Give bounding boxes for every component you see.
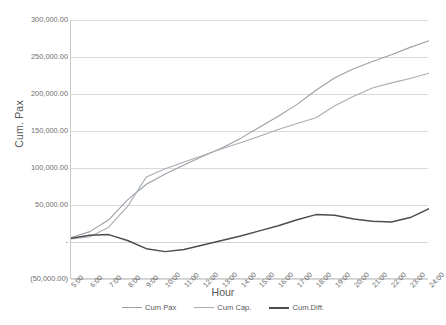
chart-legend: Cum PaxCum Cap.Cum.Diff. xyxy=(0,303,446,312)
series-line xyxy=(71,73,429,239)
legend-swatch xyxy=(269,307,289,309)
y-tick-label: 50,000.00 xyxy=(0,201,68,209)
legend-item[interactable]: Cum Cap. xyxy=(194,303,251,312)
x-axis-title: Hour xyxy=(0,286,446,298)
y-tick-label: 200,000.00 xyxy=(0,90,68,98)
y-tick-label: 150,000.00 xyxy=(0,127,68,135)
legend-label: Cum.Diff. xyxy=(292,303,324,312)
legend-swatch xyxy=(122,307,142,308)
y-tick-label: 250,000.00 xyxy=(0,53,68,61)
y-tick-label: 300,000.00 xyxy=(0,16,68,24)
plot-area xyxy=(70,20,428,279)
y-tick-label: (50,000.00) xyxy=(0,275,68,283)
series-line xyxy=(71,209,429,252)
legend-item[interactable]: Cum Pax xyxy=(122,303,176,312)
chart-container: Cum. Pax 300,000.00250,000.00200,000.001… xyxy=(0,0,446,325)
series-lines xyxy=(71,20,429,279)
legend-swatch xyxy=(194,307,214,308)
y-tick-label: 100,000.00 xyxy=(0,164,68,172)
legend-label: Cum Pax xyxy=(145,303,176,312)
legend-label: Cum Cap. xyxy=(217,303,251,312)
legend-item[interactable]: Cum.Diff. xyxy=(269,303,324,312)
y-tick-label: - xyxy=(0,238,68,246)
